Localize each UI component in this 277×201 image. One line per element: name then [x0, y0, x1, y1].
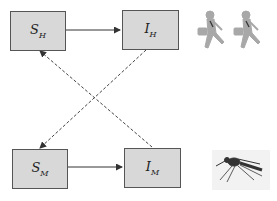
mosquito-icon: [212, 150, 270, 190]
node-infected-humans: IH: [122, 10, 179, 50]
running-humans-icon: [196, 8, 274, 54]
node-susceptible-mosquitoes: SM: [12, 149, 68, 189]
node-infected-mosquitoes: IM: [124, 148, 181, 188]
node-label: IM: [146, 159, 159, 177]
node-label: SM: [31, 160, 48, 178]
node-susceptible-humans: SH: [10, 11, 66, 51]
node-label: SH: [30, 22, 46, 40]
node-label: IH: [144, 21, 156, 39]
